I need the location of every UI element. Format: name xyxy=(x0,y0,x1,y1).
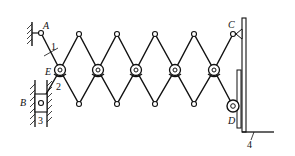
part-number-3: 3 xyxy=(38,115,43,126)
label-d: D xyxy=(227,115,236,126)
label-e: E xyxy=(44,66,51,77)
platform-4 xyxy=(236,18,274,140)
joint-e xyxy=(54,65,66,77)
joint-a xyxy=(39,31,44,36)
label-c: C xyxy=(228,19,235,30)
label-b: B xyxy=(20,97,26,108)
part-number-1: 1 xyxy=(51,41,56,52)
joint-b xyxy=(39,101,44,106)
joint-c xyxy=(231,32,236,37)
ground-support-a xyxy=(27,22,40,46)
roller-d xyxy=(227,100,239,112)
part-number-4: 4 xyxy=(247,139,252,150)
part-number-2: 2 xyxy=(56,81,61,92)
label-a: A xyxy=(42,20,50,31)
scissor-links xyxy=(60,34,233,106)
scissor-mechanism-diagram: A E B C D 1 2 3 4 xyxy=(0,0,295,156)
